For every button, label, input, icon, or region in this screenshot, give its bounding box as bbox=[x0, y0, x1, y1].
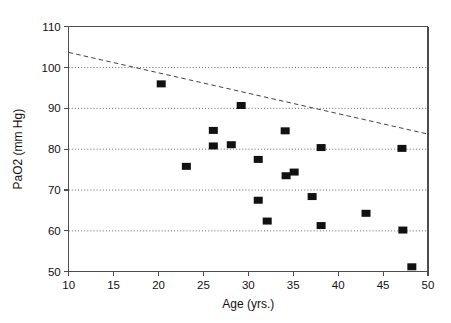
x-tick-labels: 101520253035404550 bbox=[62, 279, 434, 291]
x-axis-title: Age (yrs.) bbox=[222, 297, 274, 311]
data-point-marker bbox=[317, 222, 326, 229]
x-tick-label: 50 bbox=[422, 279, 435, 291]
data-point-marker bbox=[157, 80, 166, 87]
regression-trend-line bbox=[69, 52, 428, 134]
data-point-marker bbox=[237, 102, 246, 109]
data-point-marker bbox=[209, 142, 218, 149]
data-point-marker bbox=[398, 227, 407, 234]
x-tick-label: 10 bbox=[62, 279, 75, 291]
y-tick-label: 90 bbox=[48, 102, 61, 114]
x-tick-label: 40 bbox=[332, 279, 345, 291]
data-point-marker bbox=[254, 197, 263, 204]
y-tick-labels: 5060708090100110 bbox=[42, 21, 61, 278]
data-point-marker bbox=[362, 210, 371, 217]
data-point-marker bbox=[317, 144, 326, 151]
y-tick-label: 60 bbox=[48, 225, 61, 237]
data-point-marker bbox=[407, 263, 416, 270]
axis-ticks bbox=[64, 27, 428, 277]
data-point-marker bbox=[308, 193, 317, 200]
x-tick-label: 30 bbox=[242, 279, 255, 291]
x-tick-label: 25 bbox=[197, 279, 210, 291]
data-point-marker bbox=[397, 145, 406, 152]
y-tick-label: 80 bbox=[48, 143, 61, 155]
x-tick-label: 35 bbox=[287, 279, 300, 291]
x-tick-label: 45 bbox=[377, 279, 390, 291]
data-point-marker bbox=[282, 172, 291, 179]
y-tick-label: 50 bbox=[48, 266, 61, 278]
axes bbox=[69, 27, 428, 272]
data-points bbox=[157, 80, 417, 270]
trend-line bbox=[69, 52, 428, 134]
y-tick-label: 100 bbox=[42, 62, 61, 74]
data-point-marker bbox=[263, 218, 272, 225]
data-point-marker bbox=[254, 156, 263, 163]
data-point-marker bbox=[281, 127, 290, 134]
data-point-marker bbox=[209, 127, 218, 134]
data-point-marker bbox=[182, 163, 191, 170]
y-tick-label: 70 bbox=[48, 184, 61, 196]
y-axis-title: PaO2 (mm Hg) bbox=[11, 109, 25, 190]
x-tick-label: 15 bbox=[107, 279, 120, 291]
data-point-marker bbox=[290, 169, 299, 176]
y-tick-label: 110 bbox=[42, 21, 60, 33]
gridlines bbox=[69, 68, 428, 231]
x-tick-label: 20 bbox=[152, 279, 165, 291]
scatter-plot: 5060708090100110 101520253035404550 Age … bbox=[0, 0, 451, 323]
data-point-marker bbox=[227, 141, 236, 148]
chart-figure: 5060708090100110 101520253035404550 Age … bbox=[0, 0, 451, 323]
